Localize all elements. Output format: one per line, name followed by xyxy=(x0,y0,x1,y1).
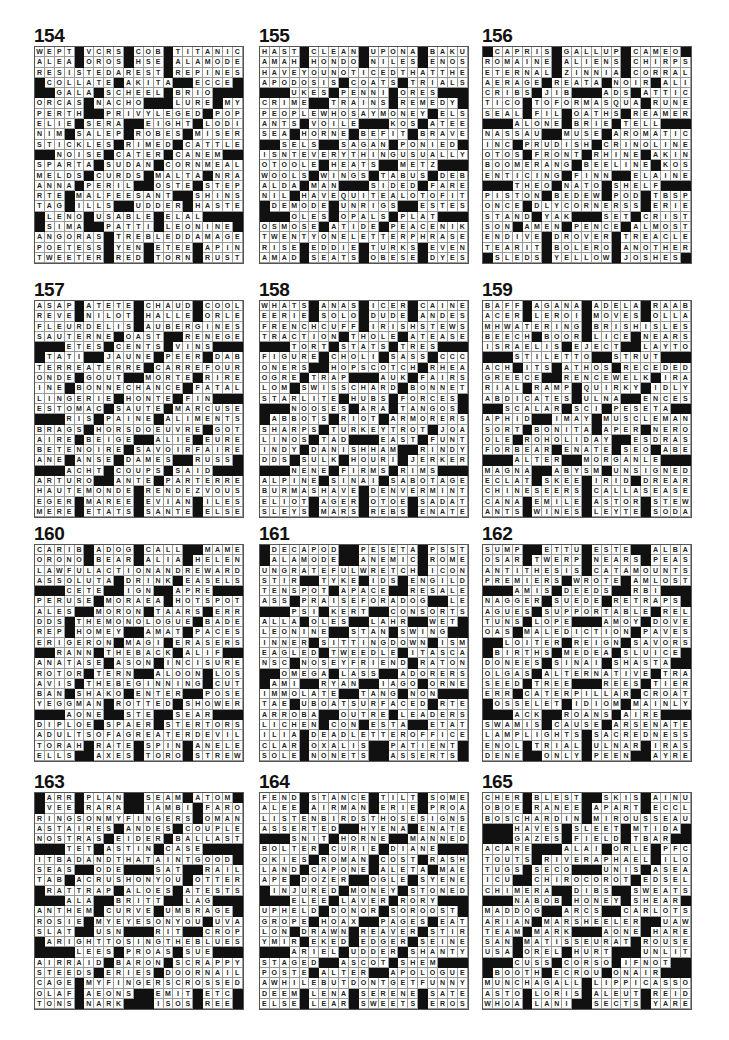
letter-cell: O xyxy=(144,129,154,139)
letter-cell: E xyxy=(428,332,438,342)
letter-cell: L xyxy=(562,751,572,761)
letter-cell: S xyxy=(300,855,310,865)
letter-cell: M xyxy=(408,414,418,424)
letter-cell: S xyxy=(45,824,55,834)
letter-cell: F xyxy=(104,191,114,201)
black-square xyxy=(602,78,612,88)
letter-cell: B xyxy=(75,545,85,555)
letter-cell: T xyxy=(290,342,300,352)
letter-cell: U xyxy=(173,301,183,311)
letter-cell: L xyxy=(309,999,319,1009)
black-square xyxy=(349,824,359,834)
letter-cell: H xyxy=(84,689,94,699)
letter-cell: I xyxy=(671,88,681,98)
letter-cell: A xyxy=(681,373,691,383)
letter-cell: O xyxy=(562,865,572,875)
letter-cell: O xyxy=(134,658,144,668)
black-square xyxy=(300,119,310,129)
letter-cell: C xyxy=(458,352,468,362)
letter-cell: I xyxy=(389,322,399,332)
letter-cell: E xyxy=(45,47,55,57)
letter-cell: A xyxy=(408,545,418,555)
letter-cell: R xyxy=(193,968,203,978)
letter-cell: U xyxy=(369,47,379,57)
letter-cell: V xyxy=(671,617,681,627)
black-square xyxy=(55,586,65,596)
black-square xyxy=(483,455,493,465)
letter-cell: O xyxy=(114,545,124,555)
letter-cell: T xyxy=(398,129,408,139)
black-square xyxy=(631,545,641,555)
letter-cell: L xyxy=(300,978,310,988)
letter-cell: A xyxy=(562,741,572,751)
letter-cell: W xyxy=(203,566,213,576)
letter-cell: A xyxy=(114,119,124,129)
letter-cell: N xyxy=(428,689,438,699)
black-square xyxy=(552,68,562,78)
letter-cell: E xyxy=(641,875,651,885)
letter-cell: S xyxy=(671,222,681,232)
letter-cell: C xyxy=(483,497,493,507)
letter-cell: N xyxy=(389,486,399,496)
black-square xyxy=(35,222,45,232)
letter-cell: O xyxy=(602,311,612,321)
letter-cell: D xyxy=(458,886,468,896)
letter-cell: G xyxy=(513,834,523,844)
letter-cell: M xyxy=(612,699,622,709)
letter-cell: A xyxy=(389,968,399,978)
puzzle-154: 154WEPTVCRSCOBTITANICALEAOROSHSEALAMODER… xyxy=(34,26,244,264)
letter-cell: L xyxy=(562,497,572,507)
letter-cell: U xyxy=(602,865,612,875)
letter-cell: E xyxy=(84,253,94,263)
letter-cell: D xyxy=(602,301,612,311)
letter-cell: B xyxy=(552,896,562,906)
letter-cell: S xyxy=(223,834,233,844)
letter-cell: N xyxy=(260,191,270,201)
letter-cell: I xyxy=(369,476,379,486)
letter-cell: C xyxy=(513,958,523,968)
letter-cell: E xyxy=(562,803,572,813)
black-square xyxy=(631,476,641,486)
letter-cell: A xyxy=(124,720,134,730)
letter-cell: A xyxy=(513,455,523,465)
letter-cell: H xyxy=(542,435,552,445)
letter-cell: A xyxy=(164,627,174,637)
black-square xyxy=(398,834,408,844)
black-square xyxy=(84,555,94,565)
black-square xyxy=(602,181,612,191)
black-square xyxy=(408,507,418,517)
letter-cell: C xyxy=(290,545,300,555)
letter-cell: A xyxy=(542,669,552,679)
letter-cell: E xyxy=(290,906,300,916)
letter-cell: I xyxy=(349,466,359,476)
letter-cell: L xyxy=(45,607,55,617)
letter-cell: I xyxy=(280,98,290,108)
letter-cell: I xyxy=(260,445,270,455)
letter-cell: I xyxy=(661,679,671,689)
letter-cell: E xyxy=(572,855,582,865)
letter-cell: P xyxy=(104,109,114,119)
letter-cell: S xyxy=(233,886,243,896)
letter-cell: L xyxy=(552,947,562,957)
letter-cell: P xyxy=(260,968,270,978)
letter-cell: E xyxy=(290,824,300,834)
black-square xyxy=(164,342,174,352)
letter-cell: R xyxy=(369,404,379,414)
letter-cell: O xyxy=(398,638,408,648)
letter-cell: B xyxy=(671,545,681,555)
letter-cell: C xyxy=(681,844,691,854)
letter-cell: N xyxy=(349,679,359,689)
black-square xyxy=(458,906,468,916)
letter-cell: H xyxy=(572,896,582,906)
letter-cell: F xyxy=(124,814,134,824)
letter-cell: O xyxy=(369,497,379,507)
letter-cell: N xyxy=(213,222,223,232)
letter-cell: L xyxy=(651,906,661,916)
black-square xyxy=(523,741,533,751)
letter-cell: E xyxy=(329,937,339,947)
black-square xyxy=(319,720,329,730)
letter-cell: R xyxy=(621,803,631,813)
letter-cell: A xyxy=(260,978,270,988)
letter-cell: A xyxy=(329,222,339,232)
letter-cell: K xyxy=(398,243,408,253)
